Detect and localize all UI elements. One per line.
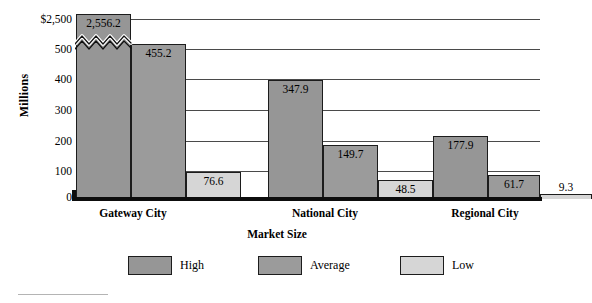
x-category-label-national-city: National City [240, 207, 410, 219]
y-tick-label-100: 100 [2, 166, 72, 178]
bar-value-label: 455.2 [132, 47, 185, 59]
bar-value-label: 61.7 [489, 178, 539, 190]
bar-value-label: 9.3 [541, 181, 591, 193]
bar-value-label: 149.7 [324, 148, 377, 160]
y-tick-label-300: 300 [2, 105, 72, 117]
bar-value-label: 2,556.2 [77, 17, 130, 29]
bar-gateway-city-low[interactable]: 76.6 [186, 172, 241, 199]
legend-label-low: Low [452, 258, 474, 273]
x-axis-title: Market Size [0, 228, 554, 240]
y-axis-title: Millions [17, 56, 32, 136]
bar-value-label: 76.6 [187, 175, 240, 187]
legend-label-average: Average [310, 258, 350, 273]
legend-item-low[interactable]: Low [400, 256, 474, 275]
legend-swatch-low-icon [400, 256, 444, 275]
x-category-label-gateway-city: Gateway City [48, 207, 218, 219]
footer-divider [18, 294, 108, 295]
y-tick-label-400: 400 [2, 74, 72, 86]
bar-value-label: 48.5 [379, 183, 432, 195]
y-tick-label-500: 500 [2, 44, 72, 56]
bar-value-label: 177.9 [434, 139, 487, 151]
bar-gateway-city-average[interactable]: 455.2 [131, 44, 186, 199]
bar-regional-city-high[interactable]: 177.9 [433, 136, 488, 199]
bar-regional-city-average[interactable]: 61.7 [488, 175, 540, 199]
legend-label-high: High [180, 258, 204, 273]
y-tick-label-200: 200 [2, 136, 72, 148]
gridline-2500 [76, 19, 540, 20]
y-tick-label-2500: $2,500 [2, 14, 72, 26]
bar-national-city-average[interactable]: 149.7 [323, 145, 378, 199]
bar-value-label: 347.9 [269, 83, 322, 95]
legend-swatch-high-icon [128, 256, 172, 275]
y-tick-label-0: 0 [2, 192, 72, 204]
plot-area: 2,556.2 455.2 76.6 347.9 149.7 48.5 177.… [76, 14, 540, 199]
legend: High Average Low [0, 256, 554, 286]
bar-national-city-high[interactable]: 347.9 [268, 80, 323, 199]
legend-item-average[interactable]: Average [258, 256, 350, 275]
legend-swatch-average-icon [258, 256, 302, 275]
x-category-label-regional-city: Regional City [400, 207, 570, 219]
bar-gateway-city-high[interactable]: 2,556.2 [76, 14, 131, 199]
bar-regional-city-low[interactable]: 9.3 [540, 194, 592, 199]
x-axis-line [74, 197, 542, 201]
legend-item-high[interactable]: High [128, 256, 204, 275]
